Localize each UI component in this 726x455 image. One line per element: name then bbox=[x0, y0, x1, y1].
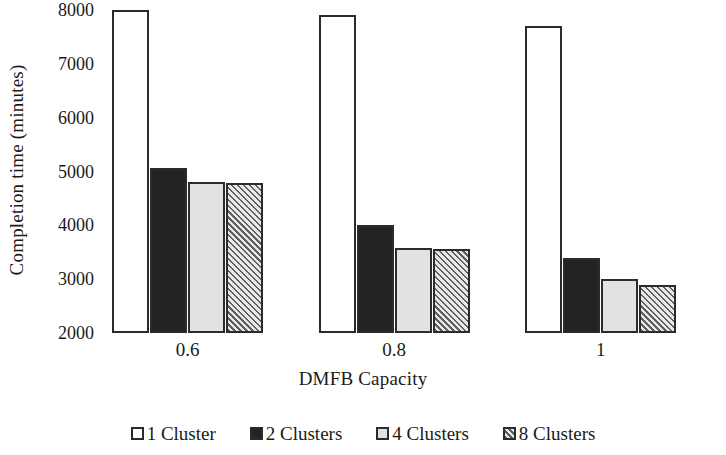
y-axis-tick-labels: 2000300040005000600070008000 bbox=[36, 0, 94, 345]
bar bbox=[226, 183, 263, 333]
legend-swatch-icon bbox=[376, 427, 389, 440]
x-axis-title: DMFB Capacity bbox=[0, 368, 726, 390]
legend-item[interactable]: 1 Cluster bbox=[131, 424, 216, 443]
y-axis-tick-label: 5000 bbox=[58, 163, 94, 181]
bar bbox=[601, 279, 638, 333]
bar bbox=[639, 285, 676, 333]
plot-area bbox=[100, 0, 720, 333]
y-axis-tick-label: 2000 bbox=[58, 324, 94, 342]
y-axis-tick-label: 4000 bbox=[58, 216, 94, 234]
legend-label: 8 Clusters bbox=[519, 424, 596, 443]
x-axis-tick-label: 1 bbox=[561, 338, 641, 362]
bar bbox=[563, 258, 600, 333]
bar bbox=[395, 248, 432, 333]
bar bbox=[150, 168, 187, 333]
legend-label: 2 Clusters bbox=[266, 424, 343, 443]
bar-chart: Completion time (minutes) 20003000400050… bbox=[0, 0, 726, 455]
y-axis-title: Completion time (minutes) bbox=[0, 0, 34, 340]
y-axis-tick-label: 6000 bbox=[58, 109, 94, 127]
legend-item[interactable]: 4 Clusters bbox=[376, 424, 469, 443]
legend-label: 1 Cluster bbox=[147, 424, 216, 443]
bar bbox=[319, 15, 356, 333]
legend-item[interactable]: 2 Clusters bbox=[250, 424, 343, 443]
bar bbox=[433, 249, 470, 333]
bar bbox=[357, 225, 394, 333]
legend-swatch-icon bbox=[250, 427, 263, 440]
y-axis-tick-label: 3000 bbox=[58, 270, 94, 288]
chart-legend: 1 Cluster2 Clusters4 Clusters8 Clusters bbox=[0, 424, 726, 443]
y-axis-tick-label: 7000 bbox=[58, 55, 94, 73]
bar bbox=[188, 182, 225, 333]
legend-item[interactable]: 8 Clusters bbox=[503, 424, 596, 443]
y-axis-tick-label: 8000 bbox=[58, 1, 94, 19]
x-axis-tick-label: 0.8 bbox=[354, 338, 434, 362]
bar bbox=[112, 10, 149, 333]
bar bbox=[525, 26, 562, 333]
x-axis-tick-label: 0.6 bbox=[148, 338, 228, 362]
legend-swatch-icon bbox=[503, 427, 516, 440]
legend-label: 4 Clusters bbox=[392, 424, 469, 443]
x-axis-tick-labels: 0.60.81 bbox=[100, 338, 720, 366]
legend-swatch-icon bbox=[131, 427, 144, 440]
